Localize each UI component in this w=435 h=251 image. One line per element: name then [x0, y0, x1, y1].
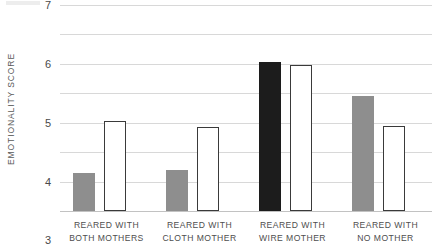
emotionality-score-bar-chart: EMOTIONALITY SCORE 01234567 REARED WITHB…: [0, 0, 435, 251]
gridline-0: 0: [60, 211, 432, 212]
y-tick-label-7: 7: [45, 0, 51, 11]
bar-left-bar-3: [352, 96, 374, 211]
x-category-label-0: REARED WITHBOTH MOTHERS: [60, 219, 153, 244]
y-tick-label-3: 3: [45, 235, 51, 246]
plot-area: 01234567: [60, 5, 432, 216]
bars-layer: [60, 5, 432, 211]
bar-right-bar-0: [104, 121, 126, 211]
bar-left-bar-0: [73, 173, 95, 211]
bar-right-bar-2: [290, 65, 312, 211]
x-category-label-line2: NO MOTHER: [339, 232, 432, 245]
bar-group: [60, 5, 153, 211]
bar-right-bar-3: [383, 126, 405, 211]
x-category-label-line1: REARED WITH: [260, 220, 325, 230]
y-axis-title-label: EMOTIONALITY SCORE: [6, 53, 16, 165]
x-category-label-line2: BOTH MOTHERS: [60, 232, 153, 245]
bar-group: [339, 5, 432, 211]
y-axis-title: EMOTIONALITY SCORE: [0, 0, 22, 218]
bar-group: [153, 5, 246, 211]
y-tick-label-5: 5: [45, 117, 51, 128]
y-tick-label-6: 6: [45, 58, 51, 69]
x-category-label-line1: REARED WITH: [353, 220, 418, 230]
bar-left-bar-2: [259, 62, 281, 211]
x-category-label-line1: REARED WITH: [167, 220, 232, 230]
bar-group: [246, 5, 339, 211]
x-category-label-line1: REARED WITH: [74, 220, 139, 230]
x-category-label-line2: WIRE MOTHER: [246, 232, 339, 245]
x-axis-category-labels: REARED WITHBOTH MOTHERSREARED WITHCLOTH …: [60, 219, 432, 251]
y-tick-label-4: 4: [45, 176, 51, 187]
x-category-label-2: REARED WITHWIRE MOTHER: [246, 219, 339, 244]
bar-right-bar-1: [197, 127, 219, 211]
x-category-label-3: REARED WITHNO MOTHER: [339, 219, 432, 244]
x-category-label-line2: CLOTH MOTHER: [153, 232, 246, 245]
x-category-label-1: REARED WITHCLOTH MOTHER: [153, 219, 246, 244]
bar-left-bar-1: [166, 170, 188, 211]
